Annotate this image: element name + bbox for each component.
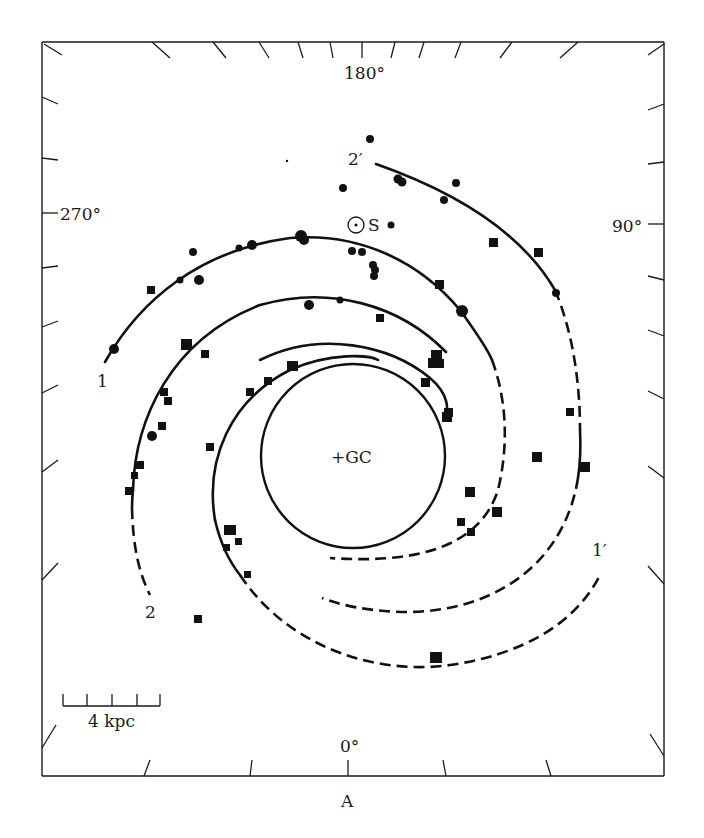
- galactic-center-label: +GC: [331, 447, 372, 467]
- stray-point: [286, 160, 288, 162]
- arm-label-1-prime: 1′: [592, 540, 607, 560]
- longitude-label-0: 0°: [340, 736, 359, 756]
- longitude-label-270: 270°: [60, 204, 101, 224]
- sun-label: S: [368, 215, 380, 235]
- arm-label-2-prime: 2′: [348, 149, 363, 169]
- scale-bar-label: 4 kpc: [88, 711, 135, 731]
- panel-label: A: [340, 791, 354, 811]
- circle-markers: [109, 135, 560, 441]
- longitude-label-180: 180°: [344, 63, 385, 83]
- longitude-label-90: 90°: [612, 216, 642, 236]
- spiral-arm-2-prime: 2′ 1′: [322, 149, 607, 612]
- arm-label-1: 1: [97, 371, 108, 391]
- arm-label-2: 2: [145, 602, 156, 622]
- galactic-spiral-diagram: 180° 270° 90° 0° A +GC S 1 2 2′ 1′: [0, 0, 704, 838]
- scale-bar: 4 kpc: [63, 694, 160, 731]
- spiral-arm-2: 2: [132, 297, 446, 622]
- spiral-arm-inner: [213, 344, 600, 667]
- sun-marker: S: [348, 215, 380, 235]
